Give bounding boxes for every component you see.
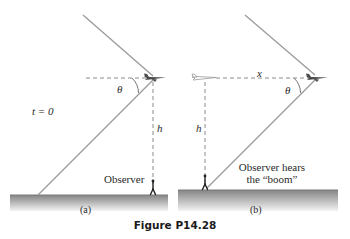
observer-label-b-line2: the “boom” <box>232 173 312 185</box>
panel-label-a: (a) <box>80 205 91 215</box>
figure-caption: Figure P14.28 <box>0 219 350 231</box>
distance-label-x: x <box>257 68 262 79</box>
figure-p14-28: θ t = 0 h Observer (a) x θ h Observer he… <box>0 0 350 239</box>
angle-arc-b <box>294 78 301 93</box>
panel-label-b: (b) <box>250 205 262 215</box>
observer-label-a: Observer <box>104 174 144 185</box>
diagram-canvas <box>0 0 350 239</box>
jet-icon-b <box>306 74 328 83</box>
shock-front-upper-b <box>245 15 315 75</box>
time-label: t = 0 <box>32 106 53 117</box>
observer-icon-a <box>151 180 156 195</box>
angle-arc-a <box>132 78 139 93</box>
observer-label-b-line1: Observer hears <box>232 161 312 173</box>
observer-hears-boom-label: Observer hears the “boom” <box>232 161 312 185</box>
height-label-b: h <box>196 123 202 134</box>
angle-label-a: θ <box>117 84 122 95</box>
observer-icon-b <box>203 175 208 190</box>
angle-label-b: θ <box>285 85 290 96</box>
height-label-a: h <box>157 123 163 134</box>
jet-ghost-icon <box>192 74 216 80</box>
shock-front-upper-a <box>83 15 153 76</box>
jet-icon-a <box>144 74 166 83</box>
